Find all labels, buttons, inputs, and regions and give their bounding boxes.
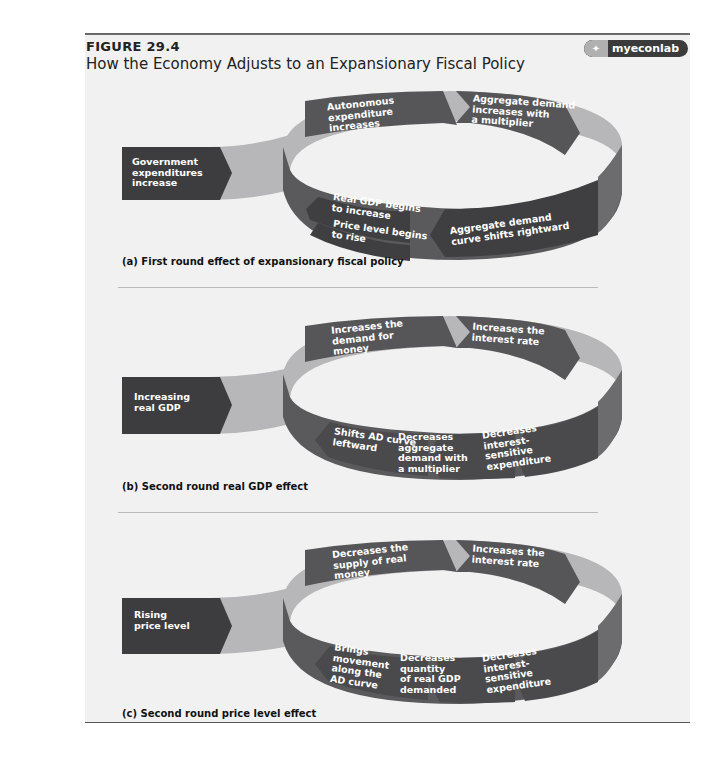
input-box-a: Government expenditures increase	[132, 157, 203, 189]
caption-b: (b) Second round real GDP effect	[122, 481, 308, 492]
step-b-bottom-mid: Decreases aggregate demand with a multip…	[398, 432, 468, 474]
panel-a: Government expenditures increase Autonom…	[110, 85, 630, 265]
myeconlab-badge[interactable]: ✦ myeconlab	[584, 40, 688, 57]
input-box-c: Rising price level	[134, 610, 190, 631]
separator-a	[118, 287, 598, 288]
caption-a: (a) First round effect of expansionary f…	[122, 256, 404, 267]
top-rule	[85, 33, 690, 35]
panel-b: Increasing real GDP Increases the demand…	[110, 312, 630, 482]
caption-c: (c) Second round price level effect	[122, 708, 316, 719]
step-c-bottom-mid: Decreases quantity of real GDP demanded	[400, 653, 461, 695]
myeconlab-logo-icon: ✦	[584, 40, 608, 57]
bottom-rule	[85, 722, 690, 723]
figure-label: FIGURE 29.4	[86, 39, 180, 54]
step-b-bottom-right: Decreases interest- sensitive expenditur…	[481, 422, 551, 473]
figure-title: How the Economy Adjusts to an Expansiona…	[86, 55, 525, 73]
input-box-b: Increasing real GDP	[134, 392, 190, 413]
separator-b	[118, 512, 598, 513]
step-c-bottom-right: Decreases interest- sensitive expenditur…	[481, 645, 551, 696]
step-c-bottom-left: Brings movement along the AD curve	[329, 642, 391, 691]
badge-text: myeconlab	[608, 42, 679, 55]
panel-c: Rising price level Decreases the supply …	[110, 538, 630, 708]
